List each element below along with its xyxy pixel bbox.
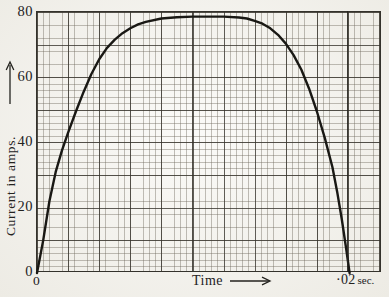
y-axis-title: Current in amps. bbox=[3, 110, 19, 262]
x-end-label: ·02 sec. bbox=[336, 272, 374, 288]
current-curve-path bbox=[37, 17, 350, 273]
right-arrow-icon bbox=[230, 276, 272, 286]
y-tick-0: 0 bbox=[0, 264, 33, 278]
current-curve bbox=[37, 12, 382, 273]
x-end-value: ·02 bbox=[336, 272, 356, 288]
plot-area bbox=[36, 11, 381, 272]
y-tick-80: 80 bbox=[0, 4, 33, 18]
x-end-unit: sec. bbox=[358, 274, 375, 286]
x-origin-label: 0 bbox=[33, 273, 40, 289]
x-end-gridline bbox=[347, 11, 349, 272]
up-arrow-icon bbox=[4, 60, 16, 106]
figure-canvas: 80 60 40 20 0 Current in amps. 0 Time ·0… bbox=[0, 0, 389, 297]
x-axis-title-text: Time bbox=[192, 273, 223, 289]
x-axis-title: Time bbox=[192, 273, 272, 289]
